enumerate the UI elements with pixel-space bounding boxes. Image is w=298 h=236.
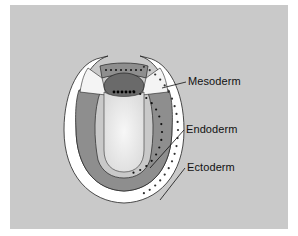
ectoderm-cell-nucleus <box>154 73 156 75</box>
mesoderm-band-nucleus <box>135 69 137 71</box>
endoderm-cell-nucleus <box>161 131 163 133</box>
endoderm-cell-nucleus <box>155 153 157 155</box>
embryo-diagram <box>0 0 298 236</box>
endoderm-cell-nucleus <box>160 139 162 141</box>
ectoderm-cell-nucleus <box>164 174 166 176</box>
endoderm-cell-nucleus <box>158 146 160 148</box>
ectoderm-cell-nucleus <box>175 145 177 147</box>
endoderm-cell-nucleus <box>155 108 157 110</box>
archenteron-cavity <box>104 92 144 172</box>
endoderm-cell-nucleus <box>160 123 162 125</box>
ectoderm-cell-nucleus <box>159 179 161 181</box>
ectoderm-cell-nucleus <box>171 160 173 162</box>
ectoderm-cell-nucleus <box>149 69 151 71</box>
mesoderm-band-nucleus <box>120 69 122 71</box>
endoderm-cell-nucleus <box>139 93 141 95</box>
mesoderm-band-nucleus <box>125 69 127 71</box>
mesoderm-cell-nucleus <box>129 91 132 94</box>
mesoderm-cell-nucleus <box>113 91 116 94</box>
ectoderm-cell-nucleus <box>177 121 179 123</box>
mesoderm-band-nucleus <box>130 69 132 71</box>
endoderm-label: Endoderm <box>186 123 238 135</box>
endoderm-cell-nucleus <box>151 102 153 104</box>
mesoderm-band-nucleus <box>105 69 107 71</box>
ectoderm-cell-nucleus <box>168 91 170 93</box>
mesoderm-cell-nucleus <box>125 91 128 94</box>
endoderm-cell-nucleus <box>158 115 160 117</box>
endoderm-cell-nucleus <box>151 160 153 162</box>
mesoderm-cell-nucleus <box>133 91 136 94</box>
ectoderm-cell-nucleus <box>143 192 145 194</box>
ectoderm-cell-nucleus <box>171 98 173 100</box>
mesoderm-band-nucleus <box>140 69 142 71</box>
ectoderm-cell-nucleus <box>164 84 166 86</box>
endoderm-cell-nucleus <box>145 165 147 167</box>
endoderm-cell-nucleus <box>145 97 147 99</box>
ectoderm-cell-nucleus <box>154 184 156 186</box>
ectoderm-cell-nucleus <box>177 129 179 131</box>
mesoderm-band-nucleus <box>110 69 112 71</box>
ectoderm-label: Ectoderm <box>187 161 235 173</box>
ectoderm-cell-nucleus <box>159 79 161 81</box>
endoderm-cell-nucleus <box>132 172 134 174</box>
mesoderm-band-nucleus <box>115 69 117 71</box>
ectoderm-cell-nucleus <box>168 167 170 169</box>
mesoderm-cell-nucleus <box>117 91 120 94</box>
ectoderm-cell-nucleus <box>174 153 176 155</box>
mesoderm-label: Mesoderm <box>188 75 241 87</box>
ectoderm-cell-nucleus <box>143 66 145 68</box>
ectoderm-cell-nucleus <box>149 189 151 191</box>
mesoderm-cell-nucleus <box>121 91 124 94</box>
ectoderm-cell-nucleus <box>174 105 176 107</box>
ectoderm-cell-nucleus <box>175 113 177 115</box>
endoderm-cell-nucleus <box>139 169 141 171</box>
